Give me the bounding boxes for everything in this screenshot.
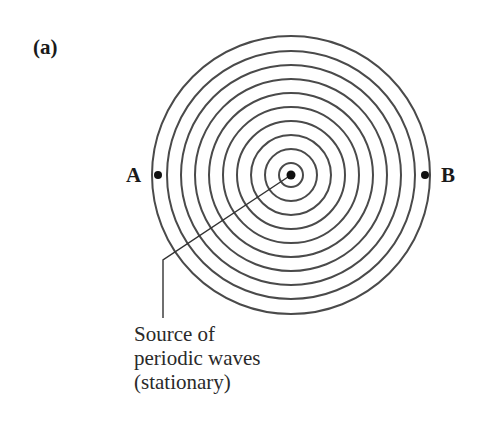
caption-line-1: Source of [134,322,215,346]
panel-label: (a) [33,35,58,59]
point-b-label: B [441,163,455,187]
point-b-dot [421,171,429,179]
wave-source-dot [287,171,296,180]
caption-line-3: (stationary) [134,370,231,394]
point-a-dot [154,171,162,179]
caption-line-2: periodic waves [134,346,261,370]
wave-diagram: (a) A B Source of periodic waves (statio… [0,0,480,427]
point-a-label: A [126,163,142,187]
